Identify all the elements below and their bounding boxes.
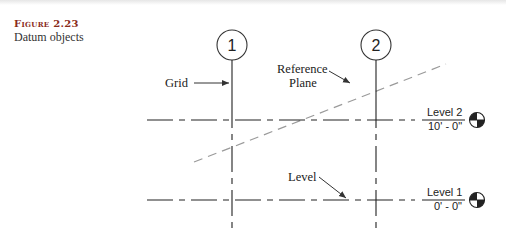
level-1: Level 1 0' - 0" <box>147 186 485 212</box>
level-2-head-icon <box>470 113 485 128</box>
datum-diagram: 1 2 Level 2 10' - 0" Level 1 0' - 0" <box>0 0 506 230</box>
level-2: Level 2 10' - 0" <box>147 106 485 132</box>
grid-callout-label: Grid <box>165 76 189 90</box>
reference-plane-callout-line2: Plane <box>289 76 317 90</box>
level-2-name: Level 2 <box>427 106 462 118</box>
level-callout: Level <box>288 170 346 198</box>
grid-callout: Grid <box>165 76 229 90</box>
level-callout-label: Level <box>288 170 317 184</box>
grid-1-label: 1 <box>228 37 237 54</box>
grid-2-label: 2 <box>372 37 381 54</box>
level-1-head-icon <box>470 193 485 208</box>
reference-plane-callout-line1: Reference <box>277 62 328 76</box>
level-1-elevation: 0' - 0" <box>434 200 462 212</box>
level-2-elevation: 10' - 0" <box>428 120 462 132</box>
reference-plane-callout: Reference Plane <box>277 62 350 90</box>
level-1-name: Level 1 <box>427 186 462 198</box>
